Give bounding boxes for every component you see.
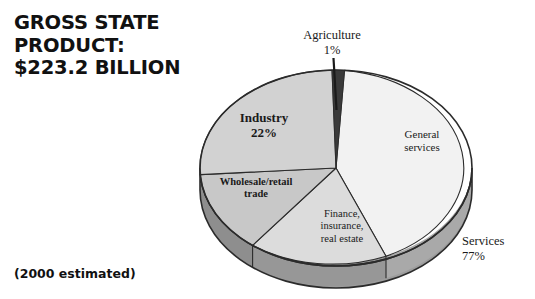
slice-industry[interactable]: [200, 70, 336, 175]
gross-state-product-pie-figure: GROSS STATE PRODUCT: $223.2 BILLION (200…: [0, 0, 535, 299]
pie-chart: Agriculture 1% Industry 22% General serv…: [0, 0, 535, 299]
pie-chart-svg: [0, 0, 535, 299]
